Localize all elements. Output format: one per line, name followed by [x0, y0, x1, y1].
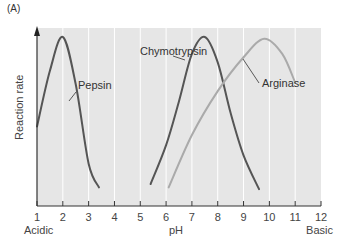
x-axis-right-label: Basic	[306, 224, 333, 236]
x-tick-label: 11	[289, 211, 300, 223]
chymotrypsin-label: Chymotrypsin	[140, 45, 207, 57]
x-tick-label: 3	[86, 211, 92, 223]
pepsin-label: Pepsin	[78, 79, 112, 91]
arginase-label: Arginase	[262, 77, 305, 89]
x-tick-label: 2	[60, 211, 66, 223]
x-tick-label: 12	[315, 211, 327, 223]
x-tick-label: 5	[137, 211, 143, 223]
line-chart: PepsinChymotrypsinArginase 1234567891011…	[0, 0, 346, 245]
x-tick-label: 8	[215, 211, 221, 223]
x-tick-label: 9	[240, 211, 246, 223]
x-tick-label: 4	[111, 211, 117, 223]
x-tick-label: 7	[189, 211, 195, 223]
x-axis-left-label: Acidic	[24, 224, 54, 236]
x-tick-label: 10	[263, 211, 275, 223]
x-tick-label: 6	[163, 211, 169, 223]
x-axis-label: pH	[169, 224, 183, 236]
x-tick-label: 1	[34, 211, 40, 223]
y-axis-label: Reaction rate	[13, 75, 25, 140]
